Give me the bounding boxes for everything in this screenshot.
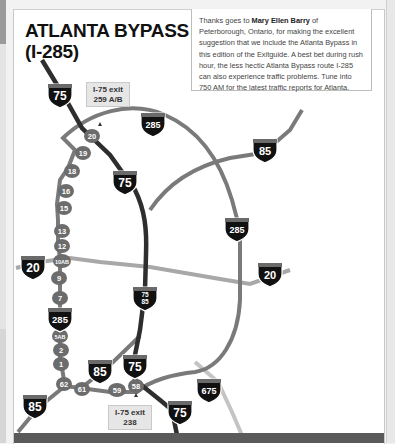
svg-text:75: 75 — [118, 176, 132, 190]
title-line1: ATLANTA BYPASS — [25, 20, 189, 41]
shield-i285-east: 285 — [225, 218, 249, 242]
svg-text:285: 285 — [52, 314, 69, 325]
svg-text:1: 1 — [59, 360, 63, 369]
svg-text:10AB: 10AB — [55, 259, 69, 265]
svg-text:75: 75 — [53, 89, 67, 103]
svg-text:13: 13 — [58, 227, 66, 236]
svg-text:2: 2 — [59, 346, 63, 355]
bottom-bar — [14, 433, 384, 443]
svg-text:75: 75 — [173, 406, 187, 420]
exit-20: 20 — [84, 129, 100, 143]
shield-i75-85: 7585 — [133, 287, 157, 311]
svg-text:285: 285 — [229, 225, 244, 235]
shield-i20-west: 20 — [21, 256, 45, 280]
svg-text:75: 75 — [141, 291, 149, 298]
svg-text:18: 18 — [68, 167, 76, 176]
exit-15: 15 — [56, 201, 72, 215]
exit-label-north-line1: I-75 exit — [90, 85, 126, 95]
note-prefix: Thanks goes to — [199, 16, 252, 25]
exit-59: 59 — [108, 383, 126, 397]
svg-text:12: 12 — [58, 242, 66, 251]
exit-13: 13 — [54, 224, 70, 238]
exit-label-north-line2: 259 A/B — [90, 95, 126, 105]
exit-label-south-line1: I-75 exit — [112, 408, 148, 418]
exit-18: 18 — [64, 164, 80, 178]
shield-i75-bottom: 75 — [168, 401, 192, 425]
svg-text:75: 75 — [128, 360, 142, 374]
acknowledgement-note: Thanks goes to Mary Ellen Barry of Peter… — [191, 9, 372, 91]
svg-text:62: 62 — [60, 380, 68, 389]
shield-i285-west: 285 — [48, 308, 72, 332]
shield-i20-east: 20 — [258, 263, 282, 287]
svg-text:85: 85 — [141, 298, 149, 305]
svg-text:285: 285 — [145, 120, 160, 130]
svg-text:15: 15 — [60, 204, 68, 213]
shield-i75-south: 75 — [123, 355, 147, 379]
shield-i85-ne: 85 — [253, 139, 277, 163]
exit-7: 7 — [52, 291, 68, 305]
page-title: ATLANTA BYPASS (I-285) — [25, 20, 189, 62]
svg-text:58: 58 — [132, 382, 140, 391]
note-name: Mary Ellen Barry — [252, 16, 310, 25]
exit-16: 16 — [58, 184, 74, 198]
svg-text:9: 9 — [57, 274, 61, 283]
i675-route — [195, 362, 244, 440]
note-body: of Peterborough, Ontario, for making the… — [199, 16, 363, 92]
svg-text:85: 85 — [28, 400, 42, 414]
exit-2: 2 — [53, 343, 69, 357]
shield-i675: 675 — [197, 379, 221, 403]
svg-text:675: 675 — [201, 386, 216, 396]
exit-pointer-north — [98, 122, 102, 126]
exit-12: 12 — [54, 239, 70, 253]
exit-61: 61 — [74, 382, 90, 396]
exit-9: 9 — [51, 271, 67, 285]
svg-text:61: 61 — [78, 385, 86, 394]
exit-20-label: 20 — [88, 132, 96, 141]
exit-58: 58 — [128, 379, 144, 393]
exit-62: 62 — [56, 377, 72, 391]
svg-text:19: 19 — [79, 149, 87, 158]
exit-10ab: 10AB — [53, 254, 71, 268]
exit-1: 1 — [53, 357, 69, 371]
svg-text:85: 85 — [259, 145, 271, 157]
svg-text:7: 7 — [58, 294, 62, 303]
shield-i285-top: 285 — [141, 113, 165, 137]
svg-text:85: 85 — [93, 365, 107, 379]
svg-text:59: 59 — [113, 386, 121, 395]
exit-label-north: I-75 exit 259 A/B — [86, 82, 130, 107]
exit-19: 19 — [75, 146, 91, 160]
exit-label-south-line2: 238 — [112, 418, 148, 428]
svg-text:16: 16 — [62, 187, 70, 196]
svg-text:5AB: 5AB — [54, 334, 65, 340]
shield-i85-sw: 85 — [23, 395, 47, 419]
svg-text:20: 20 — [26, 261, 40, 275]
title-line2: (I-285) — [25, 41, 189, 62]
svg-text:20: 20 — [264, 269, 276, 281]
i85-connector — [150, 153, 262, 210]
exit-label-south: I-75 exit 238 — [108, 405, 152, 430]
